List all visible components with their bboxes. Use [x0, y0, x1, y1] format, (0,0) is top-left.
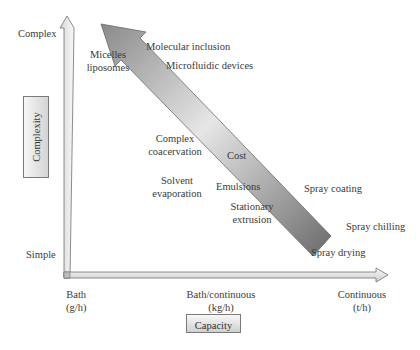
label-microfluidic-devices: Microfluidic devices	[166, 59, 253, 72]
y-axis-bottom-label: Simple	[26, 248, 56, 261]
label-solvent-evaporation: Solvent evaporation	[142, 174, 212, 200]
label-complex-coacervation: Complex coacervation	[140, 132, 210, 158]
label-spray-drying: Spray drying	[311, 246, 366, 259]
x-axis-arrow	[64, 268, 388, 282]
x-tick-bath: Bath (g/h)	[66, 288, 86, 314]
label-emulsions: Emulsions	[216, 180, 260, 193]
y-axis-title: Complexity	[31, 112, 42, 162]
y-axis-title-box: Complexity	[23, 96, 49, 178]
y-axis-top-label: Complex	[18, 27, 57, 40]
label-molecular-inclusion: Molecular inclusion	[146, 40, 230, 53]
label-spray-chilling: Spray chilling	[346, 220, 405, 233]
x-axis-title: Capacity	[195, 320, 232, 331]
label-spray-coating: Spray coating	[304, 182, 362, 195]
y-axis-arrow	[60, 16, 74, 278]
x-axis-title-box: Capacity	[186, 314, 241, 333]
label-stationary-extrusion: Stationary extrusion	[222, 200, 282, 226]
x-tick-bath-continuous: Bath/continuous (kg/h)	[176, 288, 266, 314]
x-tick-continuous: Continuous (t/h)	[332, 288, 392, 314]
cost-label: Cost	[227, 149, 246, 162]
label-micelles-liposomes: Micelles liposomes	[78, 48, 138, 74]
